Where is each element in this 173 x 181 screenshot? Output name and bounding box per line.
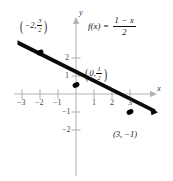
fraction-numerator: 3	[37, 18, 42, 25]
label-point-minus2-three-halves: ( −2, 3 2 )	[19, 18, 48, 33]
x-tick-label-neg2: −2	[35, 99, 44, 107]
x-tick-label-2: 2	[110, 99, 114, 107]
x-tick-label-neg3: −3	[17, 99, 26, 107]
x-tick-label-1: 1	[92, 99, 96, 107]
function-formula: f(x) = 1 − x 2	[88, 16, 136, 36]
coord-x-text: −2,	[25, 21, 37, 30]
y-tick-label-neg1: −1	[62, 108, 71, 116]
x-tick-label-neg1: −1	[53, 99, 62, 107]
x-axis-label: x	[157, 84, 161, 93]
marker-3-minus1	[126, 108, 135, 116]
y-tick-label-1: 1	[65, 72, 69, 80]
fraction-one-half: 1 2	[96, 66, 101, 81]
x-tick-label-3: 3	[128, 99, 132, 107]
formula-function-name: f(x)	[88, 21, 101, 31]
fraction-denominator: 2	[37, 27, 42, 34]
coord-x-text: 0,	[90, 69, 96, 78]
graph-figure: x y −3 −2 −1 1 2 3 2 1 −1 −2 ( −2, 3 2 )…	[0, 0, 173, 181]
y-tick-label-2: 2	[65, 54, 69, 62]
fraction-denominator: 2	[96, 75, 101, 82]
label-point-y-intercept: ( 0, 1 2 )	[84, 66, 108, 81]
formula-denominator: 2	[120, 28, 128, 37]
y-axis	[72, 17, 81, 176]
formula-equals: =	[104, 21, 109, 31]
fraction-three-halves: 3 2	[37, 18, 42, 33]
y-axis-label: y	[79, 8, 83, 17]
y-tick-label-neg2: −2	[62, 126, 71, 134]
fraction-numerator: 1	[96, 66, 101, 73]
formula-numerator: 1 − x	[113, 16, 137, 25]
label-point-3-minus1: (3, −1)	[113, 130, 137, 139]
formula-fraction: 1 − x 2	[113, 16, 137, 36]
